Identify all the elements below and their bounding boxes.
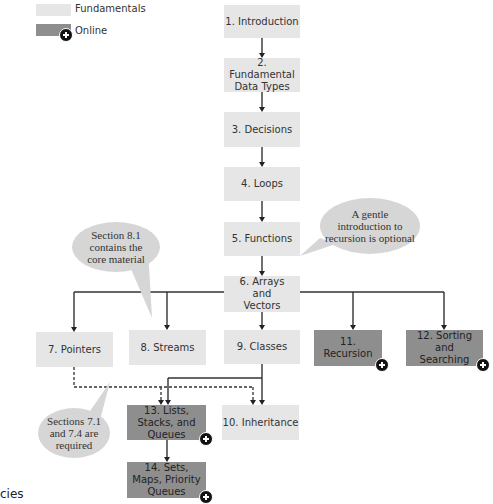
note-recursion-optional: A gentle introduction to recursion is op… xyxy=(320,198,420,254)
note-streams-section: Section 8.1 contains the core material xyxy=(72,222,160,272)
caption-fragment: cies xyxy=(0,487,24,501)
note-pointers-sections: Sections 7.1 and 7.4 are required xyxy=(38,408,110,458)
